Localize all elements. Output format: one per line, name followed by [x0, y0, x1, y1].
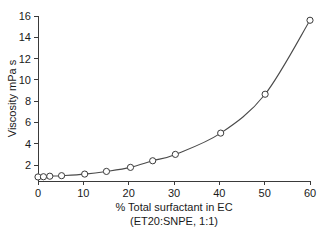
axis-titles: Viscosity mPa s% Total surfactant in EC(…: [6, 59, 233, 227]
data-point-marker: [47, 173, 53, 179]
y-tick-label: 8: [25, 95, 31, 107]
data-series-viscosity: [35, 17, 313, 180]
data-point-marker: [103, 168, 109, 174]
x-tick-label: 40: [213, 187, 225, 199]
x-axis: 0102030405060: [35, 181, 316, 199]
data-point-marker: [307, 17, 313, 23]
x-axis-subtitle: (ET20:SNPE, 1:1): [130, 215, 218, 227]
y-axis: 246810121416: [19, 10, 38, 181]
x-tick-label: 50: [259, 187, 271, 199]
data-point-marker: [262, 91, 268, 97]
x-tick-label: 60: [304, 187, 316, 199]
data-point-marker: [82, 171, 88, 177]
data-point-marker: [150, 158, 156, 164]
x-tick-label: 20: [123, 187, 135, 199]
data-point-marker: [127, 164, 133, 170]
data-point-marker: [218, 130, 224, 136]
y-tick-label: 10: [19, 74, 31, 86]
x-tick-label: 30: [168, 187, 180, 199]
data-point-marker: [58, 173, 64, 179]
y-axis-title: Viscosity mPa s: [6, 59, 18, 137]
y-tick-label: 12: [19, 53, 31, 65]
y-tick-label: 2: [25, 159, 31, 171]
data-point-marker: [172, 151, 178, 157]
y-tick-label: 16: [19, 10, 31, 22]
data-point-marker: [40, 174, 46, 180]
x-tick-label: 0: [35, 187, 41, 199]
chart-canvas: 246810121416 0102030405060 Viscosity mPa…: [0, 0, 320, 238]
x-tick-label: 10: [77, 187, 89, 199]
viscosity-line-chart: 246810121416 0102030405060 Viscosity mPa…: [0, 0, 320, 238]
y-tick-label: 14: [19, 31, 31, 43]
y-tick-label: 6: [25, 116, 31, 128]
y-tick-label: 4: [25, 138, 31, 150]
x-axis-title: % Total surfactant in EC: [115, 201, 232, 213]
